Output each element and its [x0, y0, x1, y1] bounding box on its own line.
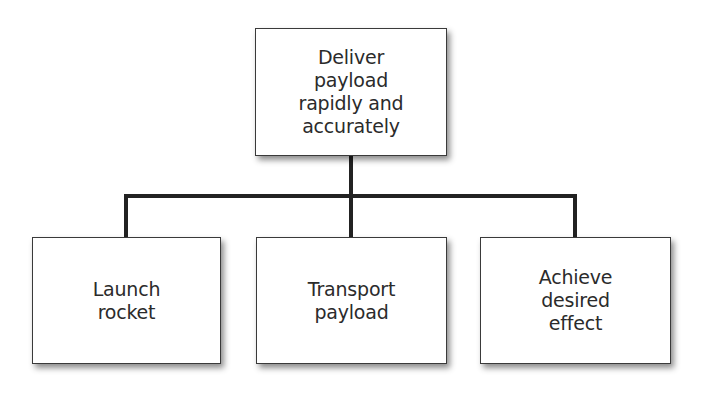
child-node-line: payload	[308, 301, 395, 324]
root-node-deliver-payload: Deliver payload rapidly and accurately	[255, 28, 447, 156]
root-node-line: payload	[299, 69, 404, 92]
hierarchy-diagram: Deliver payload rapidly and accurately L…	[0, 0, 702, 393]
root-node-line: rapidly and	[299, 92, 404, 115]
child-node-transport-payload: Transport payload	[256, 237, 447, 364]
root-node-label: Deliver payload rapidly and accurately	[299, 46, 404, 138]
child-node-line: Achieve	[539, 266, 613, 289]
child-node-line: desired	[539, 289, 613, 312]
child-node-line: Launch	[93, 278, 161, 301]
root-node-line: accurately	[299, 115, 404, 138]
child-node-label: Achieve desired effect	[539, 266, 613, 335]
child-node-line: effect	[539, 312, 613, 335]
root-node-line: Deliver	[299, 46, 404, 69]
child-node-launch-rocket: Launch rocket	[32, 237, 221, 364]
child-node-label: Launch rocket	[93, 278, 161, 324]
child-node-label: Transport payload	[308, 278, 395, 324]
child-node-achieve-desired-effect: Achieve desired effect	[480, 237, 671, 364]
child-node-line: Transport	[308, 278, 395, 301]
child-node-line: rocket	[93, 301, 161, 324]
